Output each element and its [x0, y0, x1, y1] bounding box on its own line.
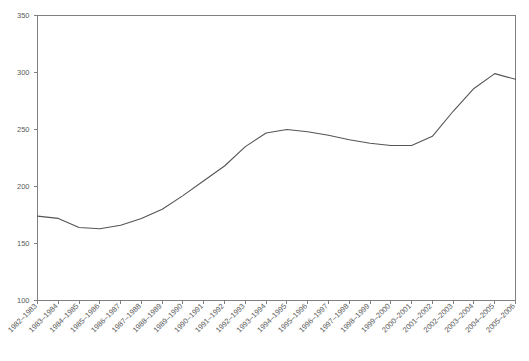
- y-tick-label: 350: [17, 11, 30, 20]
- y-tick-label: 300: [17, 68, 30, 77]
- data-series-group: [38, 74, 516, 229]
- y-axis-tick-labels: 100150200250300350: [17, 11, 30, 305]
- y-tick-label: 150: [17, 239, 30, 248]
- line-chart: 100150200250300350 1982–19831983–1984198…: [0, 0, 529, 361]
- y-tick-label: 100: [17, 296, 30, 305]
- y-axis-ticks: [34, 16, 38, 301]
- y-tick-label: 200: [17, 182, 30, 191]
- y-tick-label: 250: [17, 125, 30, 134]
- plot-area-frame: [38, 16, 516, 301]
- chart-canvas: 100150200250300350 1982–19831983–1984198…: [0, 0, 529, 361]
- x-axis-tick-labels: 1982–19831983–19841984–19851985–19861986…: [6, 302, 517, 335]
- series-line-1: [38, 74, 516, 229]
